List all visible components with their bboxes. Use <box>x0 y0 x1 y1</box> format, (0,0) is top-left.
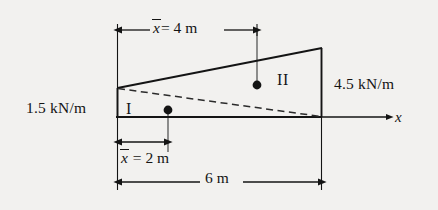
dimension-label-top: x= 4 m <box>152 20 197 36</box>
dimension-label-middle: x = 2 m <box>120 150 169 166</box>
load-diagram-figure: 1.5 kN/m 4.5 kN/m I II x= 4 m x = 2 m 6 … <box>0 0 438 210</box>
centroid-dot-region-two <box>253 81 262 90</box>
dimension-label-bottom: 6 m <box>205 170 229 186</box>
region-label-one: I <box>126 101 132 117</box>
equals-sign-middle: = <box>133 149 142 166</box>
dimension-value-middle: 2 m <box>145 149 169 166</box>
dimension-value-top: 4 m <box>174 19 198 36</box>
load-label-right: 4.5 kN/m <box>334 76 394 92</box>
region-label-two: II <box>277 72 289 88</box>
load-label-left: 1.5 kN/m <box>26 100 86 116</box>
centroid-dot-region-one <box>164 106 173 115</box>
load-top-edge <box>118 48 323 88</box>
axis-label-x: x <box>395 110 402 125</box>
x-bar-symbol-middle: x <box>120 150 129 166</box>
equals-sign-top: = <box>161 19 170 36</box>
division-diagonal-dashed <box>118 89 321 117</box>
distributed-load-trapezoid <box>116 48 322 117</box>
x-bar-symbol-top: x <box>152 20 161 36</box>
